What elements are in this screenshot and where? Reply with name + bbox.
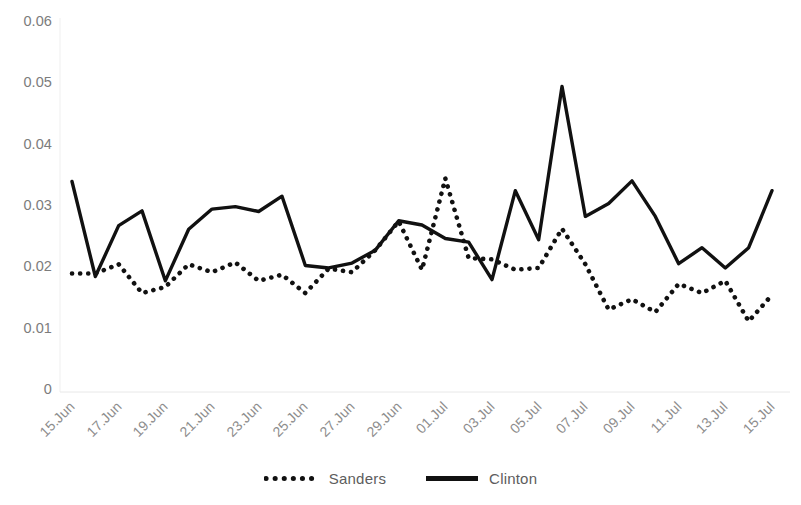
y-tick-label: 0.05 xyxy=(0,74,52,90)
y-tick-label: 0.04 xyxy=(0,136,52,152)
y-tick-label: 0.02 xyxy=(0,258,52,274)
legend-entry-sanders: Sanders xyxy=(264,470,386,487)
data-series-group xyxy=(72,86,772,321)
legend-swatch-solid-icon xyxy=(424,473,480,484)
legend-label-sanders: Sanders xyxy=(329,470,386,487)
legend-label-clinton: Clinton xyxy=(489,470,537,487)
chart-legend: Sanders Clinton xyxy=(0,470,801,487)
legend-entry-clinton: Clinton xyxy=(424,470,537,487)
y-tick-label: 0.03 xyxy=(0,197,52,213)
legend-swatch-dotted-icon xyxy=(264,473,320,484)
axis-lines xyxy=(60,18,790,392)
series-line-sanders xyxy=(72,178,772,321)
y-tick-label: 0.01 xyxy=(0,320,52,336)
y-tick-label: 0 xyxy=(0,381,52,397)
line-chart: 00.010.020.030.040.050.06 15.Jun17.Jun19… xyxy=(0,0,801,505)
plot-area xyxy=(0,0,801,505)
y-tick-label: 0.06 xyxy=(0,13,52,29)
series-line-clinton xyxy=(72,86,772,280)
